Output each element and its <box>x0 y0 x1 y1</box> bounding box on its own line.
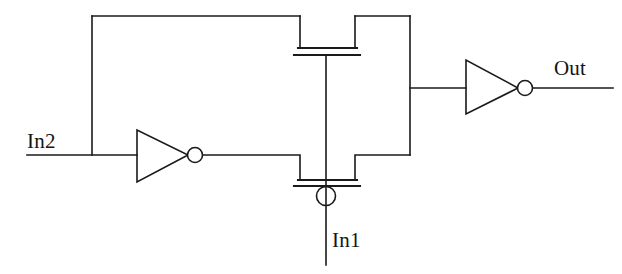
inverter-right-triangle <box>466 60 518 114</box>
inverter-right-bubble-icon <box>518 81 533 96</box>
inverter-left-triangle <box>137 130 188 182</box>
label-in2: In2 <box>27 131 56 152</box>
wire-nmos-right-terminal <box>355 155 410 180</box>
label-in1: In1 <box>332 230 361 251</box>
wire-nmos-left-terminal <box>195 155 300 180</box>
schematic-canvas: In2 In1 Out <box>0 0 622 274</box>
circuit-schematic <box>0 0 622 274</box>
label-out: Out <box>554 58 586 79</box>
wire-pmos-source-step <box>300 16 355 48</box>
inverter-left-bubble-icon <box>188 148 203 163</box>
